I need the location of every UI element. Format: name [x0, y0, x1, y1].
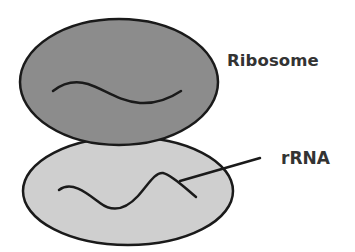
ribosome-diagram	[0, 0, 355, 252]
large-subunit-ellipse	[20, 19, 218, 145]
small-subunit-ellipse	[23, 137, 233, 245]
rrna-label: rRNA	[281, 150, 330, 167]
ribosome-label: Ribosome	[227, 53, 319, 70]
